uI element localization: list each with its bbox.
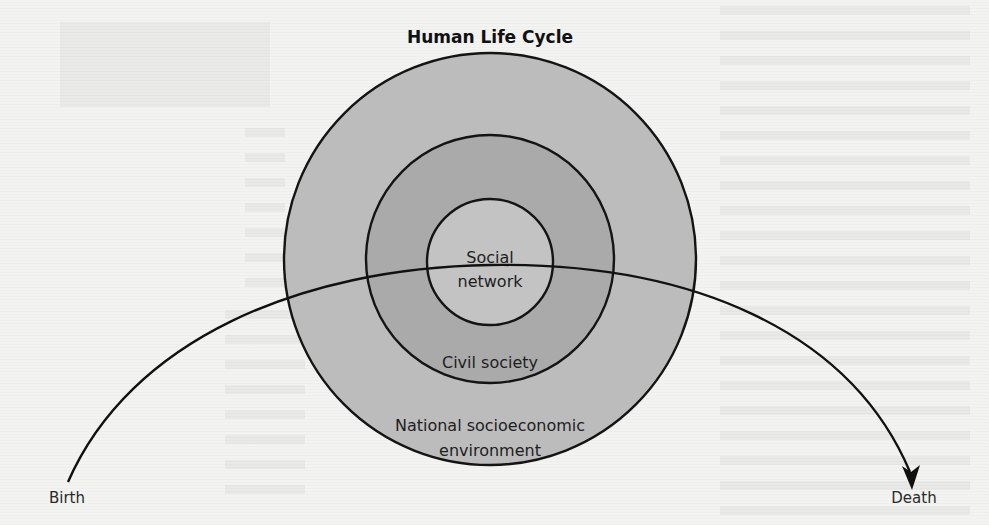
civil-society-label: Civil society (442, 353, 538, 372)
birth-label: Birth (49, 489, 85, 507)
death-label: Death (891, 489, 936, 507)
national-socioeconomic-label-line2: environment (439, 441, 541, 460)
social-network-label-line1: Social (466, 248, 513, 267)
human-life-cycle-diagram: Human Life Cycle Social network Civil so… (0, 0, 989, 525)
national-socioeconomic-label-line1: National socioeconomic (395, 416, 585, 435)
diagram-title: Human Life Cycle (407, 27, 573, 47)
arrowhead-icon (902, 465, 920, 490)
social-network-label-line2: network (458, 272, 524, 291)
